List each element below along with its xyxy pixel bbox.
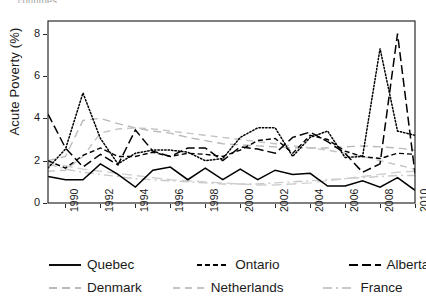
legend-label: Denmark	[87, 280, 142, 295]
series-line-alberta	[48, 34, 415, 174]
legend-label: France	[361, 280, 403, 295]
legend-swatch-france	[322, 283, 356, 293]
series-line-quebec	[48, 164, 415, 190]
legend-item-alberta: Alberta	[348, 257, 426, 272]
chart-figure: countries Acute Poverty (%) 02468 199019…	[0, 0, 426, 305]
legend-swatch-denmark	[48, 283, 82, 293]
legend-item-denmark: Denmark	[48, 280, 142, 295]
legend-item-netherlands: Netherlands	[172, 280, 284, 295]
legend-row: DenmarkNetherlandsFranceUS	[0, 276, 426, 299]
legend-label: Ontario	[235, 257, 279, 272]
legend-label: Alberta	[387, 257, 426, 272]
plot-frame	[48, 21, 415, 203]
legend-swatch-alberta	[348, 260, 382, 270]
series-line-bc	[48, 49, 415, 169]
legend-swatch-quebec	[48, 260, 82, 270]
legend-swatch-netherlands	[172, 283, 206, 293]
legend-item-ontario: Ontario	[196, 257, 279, 272]
chart-legend: QuebecOntarioAlbertaBC DenmarkNetherland…	[0, 253, 426, 299]
legend-label: Quebec	[87, 257, 134, 272]
legend-row: QuebecOntarioAlbertaBC	[0, 253, 426, 276]
series-line-ontario	[48, 135, 415, 168]
legend-item-quebec: Quebec	[48, 257, 134, 272]
legend-item-france: France	[322, 280, 403, 295]
legend-swatch-ontario	[196, 260, 230, 270]
legend-label: Netherlands	[211, 280, 284, 295]
